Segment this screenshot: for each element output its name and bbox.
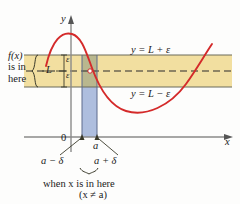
- fx-annotation-line3: here: [8, 73, 26, 84]
- epsilon-lower-label: ε: [66, 71, 69, 80]
- y-axis-arrow: [68, 15, 74, 24]
- fx-annotation-line1: f(x): [8, 50, 26, 61]
- upper-bound-equation-label: y = L + ε: [131, 44, 170, 55]
- limit-definition-figure: f(x) is in here L ε ε y = L + ε y = L − …: [0, 0, 240, 204]
- point-a-label: a: [93, 140, 98, 151]
- point-a-L-open-circle: [88, 69, 92, 73]
- y-axis-label: y: [61, 13, 66, 24]
- delta-interval-brace: [80, 168, 98, 174]
- leader-line-right: [99, 139, 118, 155]
- origin-label: 0: [61, 132, 66, 143]
- epsilon-upper-label: ε: [66, 55, 69, 64]
- fx-annotation-line2: is in: [8, 61, 26, 72]
- x-axis-label: x: [225, 136, 230, 147]
- a-minus-delta-label: a − δ: [41, 155, 63, 166]
- delta-band-lower: [82, 87, 97, 137]
- caption-line-2: (x ≠ a): [79, 189, 107, 200]
- caption-line-1: when x is in here: [43, 178, 115, 189]
- figure-canvas: [0, 0, 240, 204]
- lower-bound-equation-label: y = L − ε: [131, 88, 170, 99]
- fx-annotation: f(x) is in here: [8, 50, 26, 84]
- limit-value-label: L: [46, 64, 52, 75]
- a-plus-delta-label: a + δ: [94, 155, 116, 166]
